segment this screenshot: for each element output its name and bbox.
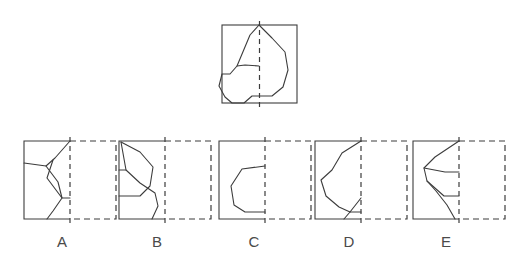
prompt-figure-inner-segment [237, 65, 259, 66]
option-e-solid-box [413, 141, 459, 219]
option-b-shape-lower [121, 142, 158, 219]
option-label-d: D [337, 233, 361, 251]
option-b[interactable] [119, 137, 211, 223]
option-label-e: E [434, 233, 458, 251]
option-c[interactable] [219, 137, 311, 223]
option-d-shape [321, 141, 361, 212]
puzzle-root: A B C D E [0, 0, 516, 273]
option-a[interactable] [24, 137, 116, 223]
option-d[interactable] [315, 137, 407, 223]
option-d-dashed-box [361, 141, 407, 219]
option-b-dashed-box [165, 141, 211, 219]
option-b-solid-box [119, 141, 165, 219]
option-a-dashed-box [70, 141, 116, 219]
option-c-solid-box [219, 141, 265, 219]
option-c-shape [231, 166, 265, 212]
option-e[interactable] [413, 137, 505, 223]
prompt-figure-box [222, 25, 297, 103]
option-label-b: B [145, 233, 169, 251]
option-d-shape-tail [344, 212, 350, 219]
prompt-figure-shape [219, 25, 288, 103]
option-a-shape [24, 141, 70, 166]
option-a-solid-box [24, 141, 70, 219]
option-e-shape [424, 141, 459, 219]
option-label-a: A [50, 233, 74, 251]
prompt-figure [219, 21, 297, 107]
option-label-c: C [242, 233, 266, 251]
option-c-dashed-box [265, 141, 311, 219]
option-e-dashed-box [459, 141, 505, 219]
option-e-shape-upper-connector [424, 168, 459, 172]
option-e-shape-lower-connector [427, 181, 459, 196]
